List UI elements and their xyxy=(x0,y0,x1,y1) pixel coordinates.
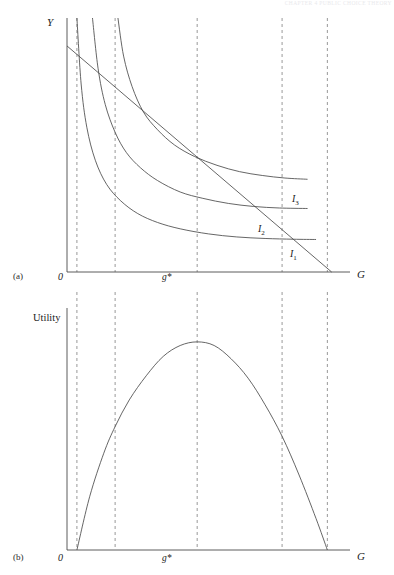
curve-label-i1: I1 xyxy=(290,249,297,262)
panel-a-origin-label: 0 xyxy=(58,272,63,282)
panel-b-x-axis-label: G xyxy=(357,551,365,562)
curve-label-i3-sub: 3 xyxy=(295,199,299,207)
panel-a-x-axis-label: G xyxy=(357,269,365,280)
panel-b-gstar-label: g* xyxy=(162,554,172,564)
panel-a-gstar-label: g* xyxy=(162,273,172,283)
panel-a-y-axis-label: Y xyxy=(47,17,53,28)
curve-label-i2-sub: 2 xyxy=(261,229,265,237)
panel-b-tag: (b) xyxy=(13,553,24,562)
panel-b-y-axis-label: Utility xyxy=(33,313,60,324)
panel-b-plot xyxy=(0,290,394,575)
curve-label-i2: I2 xyxy=(258,224,265,237)
panel-a-plot xyxy=(0,0,394,300)
panel-b-origin-label: 0 xyxy=(58,553,63,563)
figure-container: CHAPTER 4 PUBLIC CHOICE THEORY Y G 0 g* … xyxy=(0,0,394,575)
curve-label-i3: I3 xyxy=(292,194,299,207)
panel-a-tag: (a) xyxy=(13,272,23,281)
curve-label-i1-sub: 1 xyxy=(293,254,297,262)
